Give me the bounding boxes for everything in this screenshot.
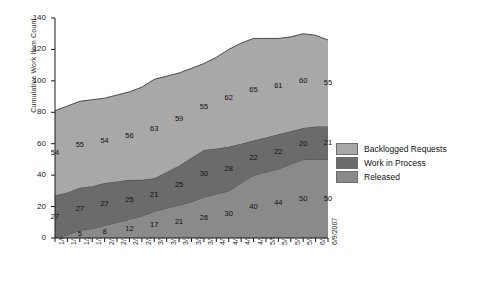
data-label: 27: [97, 199, 113, 208]
data-label: 55: [320, 78, 336, 87]
data-label: 17: [146, 220, 162, 229]
data-label: 27: [47, 212, 63, 221]
data-label: 25: [121, 195, 137, 204]
data-label: 65: [246, 85, 262, 94]
data-label: 62: [221, 93, 237, 102]
data-label: 50: [320, 194, 336, 203]
data-label: 21: [146, 190, 162, 199]
data-label: 21: [320, 138, 336, 147]
data-label: 40: [246, 202, 262, 211]
data-label: 25: [171, 180, 187, 189]
stacked-area-chart: Cumulative Work Item Count 0204060801001…: [0, 0, 477, 297]
data-label: 30: [196, 169, 212, 178]
data-label: 28: [221, 164, 237, 173]
data-label: 27: [72, 204, 88, 213]
data-label: 21: [171, 217, 187, 226]
data-label: 44: [270, 198, 286, 207]
data-label: 5: [72, 229, 88, 238]
data-label: 59: [171, 114, 187, 123]
data-label: 30: [221, 209, 237, 218]
data-label: 56: [121, 131, 137, 140]
legend-label: Released: [364, 172, 400, 182]
legend-label: Backlogged Requests: [364, 144, 447, 154]
legend-item[interactable]: Backlogged Requests: [336, 142, 447, 155]
legend-label: Work in Process: [364, 158, 426, 168]
data-label: 63: [146, 124, 162, 133]
data-label: 20: [295, 139, 311, 148]
legend-color-swatch: [336, 157, 358, 169]
data-label: 8: [97, 227, 113, 236]
legend-item[interactable]: Work in Process: [336, 156, 447, 169]
data-label: 55: [72, 140, 88, 149]
data-label: 54: [47, 148, 63, 157]
data-label: 26: [196, 213, 212, 222]
data-label: 55: [196, 102, 212, 111]
data-label: 60: [295, 76, 311, 85]
data-label: 54: [97, 136, 113, 145]
data-label: 22: [270, 147, 286, 156]
data-label: 61: [270, 81, 286, 90]
data-label: 22: [246, 153, 262, 162]
data-label: 50: [295, 194, 311, 203]
legend-color-swatch: [336, 171, 358, 183]
legend-item[interactable]: Released: [336, 170, 447, 183]
chart-legend: Backlogged RequestsWork in ProcessReleas…: [336, 142, 447, 184]
legend-color-swatch: [336, 143, 358, 155]
data-label: 12: [121, 224, 137, 233]
